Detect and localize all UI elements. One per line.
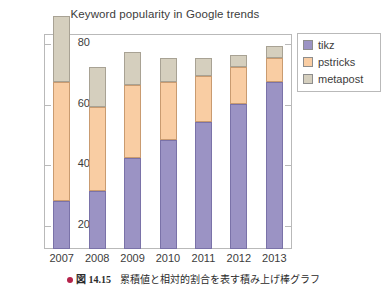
figure-caption: 図 14.15累積値と相対的割合を表す積み上げ棒グラフ bbox=[0, 271, 387, 286]
bar-segment-tikz[interactable] bbox=[266, 82, 283, 249]
bar-group[interactable] bbox=[89, 34, 106, 249]
legend-label: pstricks bbox=[318, 56, 355, 68]
bar-segment-pstricks[interactable] bbox=[124, 85, 141, 158]
legend-swatch-icon bbox=[303, 57, 313, 67]
bar-segment-pstricks[interactable] bbox=[53, 82, 70, 200]
bar-segment-pstricks[interactable] bbox=[195, 76, 212, 121]
bar-group[interactable] bbox=[195, 34, 212, 249]
bar-group[interactable] bbox=[124, 34, 141, 249]
y-axis-tick bbox=[45, 105, 51, 106]
y-axis-tick bbox=[45, 44, 51, 45]
x-axis-label: 2011 bbox=[183, 252, 223, 264]
bar-segment-pstricks[interactable] bbox=[266, 58, 283, 82]
bar-segment-metapost[interactable] bbox=[124, 52, 141, 85]
bar-group[interactable] bbox=[266, 34, 283, 249]
bar-segment-pstricks[interactable] bbox=[89, 107, 106, 192]
x-axis-label: 2013 bbox=[254, 252, 294, 264]
bar-segment-metapost[interactable] bbox=[266, 46, 283, 58]
bar-group[interactable] bbox=[53, 34, 70, 249]
bar-group[interactable] bbox=[230, 34, 247, 249]
bar-segment-tikz[interactable] bbox=[53, 201, 70, 249]
x-axis-label: 2007 bbox=[42, 252, 82, 264]
bar-segment-metapost[interactable] bbox=[230, 55, 247, 67]
chart-title: Keyword popularity in Google trends bbox=[40, 8, 290, 20]
x-axis-label: 2012 bbox=[219, 252, 259, 264]
bar-segment-tikz[interactable] bbox=[195, 122, 212, 249]
bar-group[interactable] bbox=[160, 34, 177, 249]
bar-segment-metapost[interactable] bbox=[160, 58, 177, 82]
bar-segment-metapost[interactable] bbox=[195, 58, 212, 76]
bar-segment-metapost[interactable] bbox=[89, 67, 106, 106]
x-axis-label: 2008 bbox=[77, 252, 117, 264]
legend-item-tikz[interactable]: tikz bbox=[303, 38, 376, 52]
legend-swatch-icon bbox=[303, 40, 313, 50]
bar-segment-pstricks[interactable] bbox=[160, 82, 177, 140]
caption-label: 図 bbox=[76, 274, 86, 285]
legend-label: metapost bbox=[318, 73, 363, 85]
legend-label: tikz bbox=[318, 39, 335, 51]
bar-segment-tikz[interactable] bbox=[160, 140, 177, 249]
x-axis-label: 2010 bbox=[148, 252, 188, 264]
y-axis-tick bbox=[285, 105, 291, 106]
legend-item-metapost[interactable]: metapost bbox=[303, 72, 376, 86]
caption-bullet-icon bbox=[67, 277, 73, 283]
caption-text: 累積値と相対的割合を表す積み上げ棒グラフ bbox=[120, 274, 320, 285]
y-axis-tick bbox=[285, 226, 291, 227]
bar-segment-metapost[interactable] bbox=[53, 16, 70, 83]
x-axis-label: 2009 bbox=[113, 252, 153, 264]
bar-segment-pstricks[interactable] bbox=[230, 67, 247, 103]
y-axis-tick bbox=[285, 44, 291, 45]
caption-number: 14.15 bbox=[89, 274, 112, 285]
legend-item-pstricks[interactable]: pstricks bbox=[303, 55, 376, 69]
legend-swatch-icon bbox=[303, 74, 313, 84]
bar-segment-tikz[interactable] bbox=[230, 104, 247, 249]
y-axis-tick bbox=[285, 165, 291, 166]
bar-segment-tikz[interactable] bbox=[124, 158, 141, 249]
y-axis-tick bbox=[45, 165, 51, 166]
chart-legend: tikzpstricksmetapost bbox=[297, 33, 381, 92]
bar-segment-tikz[interactable] bbox=[89, 191, 106, 249]
y-axis-tick bbox=[45, 226, 51, 227]
figure-container: Keyword popularity in Google trends 2040… bbox=[0, 0, 387, 293]
